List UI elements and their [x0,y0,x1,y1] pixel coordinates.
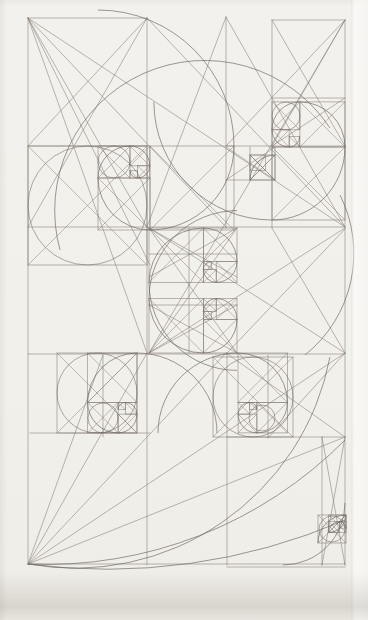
spiral-arc [149,211,237,299]
construction-lines-layer [28,17,345,567]
construction-line [227,229,345,353]
paper-edge-right [351,0,368,620]
inscribed-circles-layer [28,102,345,542]
construction-line [28,353,345,564]
construction-line [28,18,147,353]
construction-line [28,437,345,564]
construction-line [226,20,345,146]
geometric-construction-drawing [0,0,368,620]
construction-line [226,353,345,437]
construction-line [272,228,345,353]
paper-edge-top-shade [0,0,368,6]
paper-edge-left-shade [0,0,7,620]
spiral-arc [158,353,238,433]
paper-curl-shadow-bottom [0,572,368,620]
spiral-arc [137,353,217,433]
construction-line [147,18,345,227]
construction-line [147,17,226,227]
spiral-arc [98,10,234,146]
spiral-arc [305,195,354,355]
construction-line [226,17,345,227]
construction-line [28,355,103,564]
spiral-arc [28,357,330,568]
fibonacci-squares-layer [28,102,346,543]
construction-line [28,18,226,227]
paper-sheet [0,0,368,620]
construction-line [28,18,150,265]
